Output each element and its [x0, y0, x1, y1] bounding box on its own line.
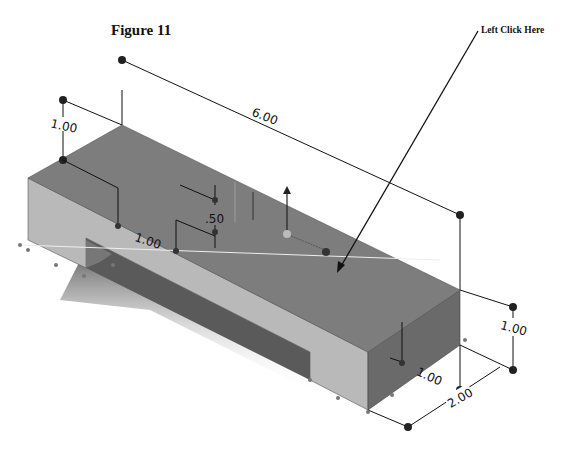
svg-text:6.00: 6.00 — [250, 105, 280, 128]
svg-text:.50: .50 — [205, 212, 224, 226]
callout-arrow — [337, 31, 478, 273]
cad-model-view[interactable]: 6.00 1.00 1.00 .50 — [0, 0, 564, 449]
svg-text:1.00: 1.00 — [414, 365, 444, 389]
